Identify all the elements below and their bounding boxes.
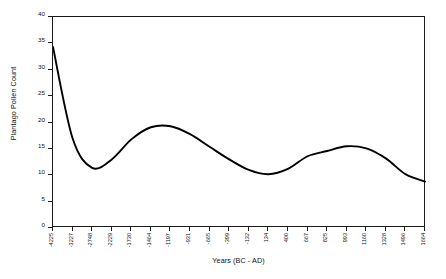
- x-axis-tick-label: -2229: [111, 219, 117, 233]
- x-axis-tick-label: 993: [346, 224, 352, 233]
- x-axis-tick-label: -1730: [130, 219, 136, 233]
- x-axis-tick-label: -4225: [52, 219, 58, 233]
- y-axis-tick-label: 35: [38, 37, 45, 43]
- pollen-count-line: [53, 47, 425, 182]
- x-axis-tick-label: -399: [228, 222, 234, 233]
- pollen-count-line-chart: Plantago Pollen Count 0510152025303540 -…: [0, 0, 446, 279]
- plot-area: [52, 16, 425, 227]
- x-axis-tick-label: -132: [248, 222, 254, 233]
- x-axis-tick-label: -1464: [150, 219, 156, 233]
- x-axis-tick-label: -665: [209, 222, 215, 233]
- x-axis-tick-label: 1496: [404, 221, 410, 233]
- y-axis-tick-label: 20: [38, 117, 45, 123]
- y-axis-tick-label: 40: [38, 11, 45, 17]
- x-axis-tick-label: 134: [267, 224, 273, 233]
- x-axis-tick-label: -2748: [91, 219, 97, 233]
- x-axis-tick-label: 400: [287, 224, 293, 233]
- x-axis-tick-label: -3227: [72, 219, 78, 233]
- y-axis-tick-label: 10: [38, 169, 45, 175]
- x-axis-title: Years (BC - AD): [52, 256, 425, 265]
- y-axis-tick-label: 0: [42, 222, 45, 228]
- x-axis-tick-label: 667: [307, 224, 313, 233]
- x-axis-tick-label: 825: [326, 224, 332, 233]
- data-line-svg: [53, 17, 426, 228]
- y-axis-tick-label: 25: [38, 90, 45, 96]
- y-axis-tick-label: 15: [38, 143, 45, 149]
- x-axis-tick-label: 1160: [365, 221, 371, 233]
- x-axis-tick-label: 1664: [424, 221, 430, 233]
- y-axis-tick-label: 5: [42, 196, 45, 202]
- x-axis-tick-label: -931: [189, 222, 195, 233]
- y-axis-tick-group: 0510152025303540: [0, 0, 52, 243]
- y-axis-tick-label: 30: [38, 64, 45, 70]
- x-axis-tick-label: -1197: [169, 219, 175, 233]
- x-axis-tick-label: 1328: [385, 221, 391, 233]
